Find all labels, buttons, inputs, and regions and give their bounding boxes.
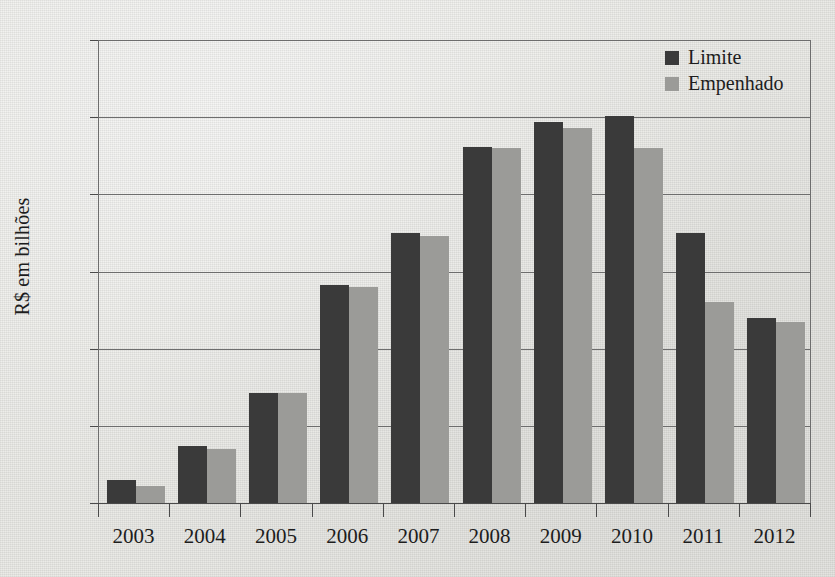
legend-swatch-icon	[665, 77, 679, 91]
bar-group	[676, 40, 734, 503]
bar-limite-2005	[249, 393, 278, 503]
bar-empenhado-2004	[207, 449, 236, 503]
x-tick-label-2010: 2010	[596, 524, 667, 549]
bar-empenhado-2008	[492, 148, 521, 503]
x-tick-mark	[454, 504, 455, 517]
x-tick-mark	[668, 504, 669, 517]
legend-label: Empenhado	[688, 72, 784, 95]
bar-empenhado-2005	[278, 393, 307, 503]
y-axis-title: R$ em bilhões	[11, 67, 34, 447]
x-tick-mark	[739, 504, 740, 517]
x-tick-label-2004: 2004	[169, 524, 240, 549]
y-tick-mark	[90, 426, 98, 427]
bar-limite-2009	[534, 122, 563, 503]
bar-group	[747, 40, 805, 503]
bar-limite-2007	[391, 233, 420, 503]
bar-limite-2004	[178, 446, 207, 503]
x-tick-mark	[525, 504, 526, 517]
bar-group	[107, 40, 165, 503]
x-tick-mark	[240, 504, 241, 517]
plot-area	[98, 40, 810, 503]
legend-item-empenhado: Empenhado	[665, 72, 784, 95]
bar-group	[605, 40, 663, 503]
x-tick-label-2007: 2007	[383, 524, 454, 549]
x-tick-mark	[810, 504, 811, 517]
legend-item-limite: Limite	[665, 46, 784, 69]
bar-empenhado-2010	[634, 148, 663, 503]
bar-limite-2010	[605, 116, 634, 503]
x-tick-label-2009: 2009	[525, 524, 596, 549]
legend-swatch-icon	[665, 51, 679, 65]
bar-group	[391, 40, 449, 503]
bar-group	[249, 40, 307, 503]
y-tick-mark	[90, 503, 98, 504]
bar-empenhado-2003	[136, 486, 165, 503]
bar-limite-2011	[676, 233, 705, 503]
bar-empenhado-2011	[705, 302, 734, 503]
bar-group	[178, 40, 236, 503]
bar-empenhado-2009	[563, 128, 592, 503]
x-tick-mark	[596, 504, 597, 517]
plot-right-border	[810, 40, 811, 504]
y-tick-mark	[90, 349, 98, 350]
x-tick-label-2011: 2011	[668, 524, 739, 549]
y-tick-mark	[90, 117, 98, 118]
bar-group	[534, 40, 592, 503]
bar-empenhado-2006	[349, 287, 378, 503]
x-tick-mark	[98, 504, 99, 517]
x-tick-label-2005: 2005	[240, 524, 311, 549]
bar-limite-2008	[463, 147, 492, 504]
bar-empenhado-2007	[420, 236, 449, 503]
y-tick-mark	[90, 40, 98, 41]
bar-limite-2006	[320, 285, 349, 503]
x-tick-mark	[312, 504, 313, 517]
y-tick-mark	[90, 272, 98, 273]
y-tick-mark	[90, 194, 98, 195]
x-tick-label-2012: 2012	[739, 524, 810, 549]
x-tick-mark	[169, 504, 170, 517]
x-tick-label-2008: 2008	[454, 524, 525, 549]
bar-limite-2003	[107, 480, 136, 503]
bar-empenhado-2012	[776, 322, 805, 503]
x-tick-mark	[383, 504, 384, 517]
bar-group	[463, 40, 521, 503]
bar-group	[320, 40, 378, 503]
x-tick-label-2003: 2003	[98, 524, 169, 549]
bar-chart: R$ em bilhões 00,511,522,53 200320042005…	[0, 0, 835, 577]
bar-limite-2012	[747, 318, 776, 503]
legend: LimiteEmpenhado	[665, 46, 784, 98]
x-tick-label-2006: 2006	[312, 524, 383, 549]
legend-label: Limite	[688, 46, 741, 69]
